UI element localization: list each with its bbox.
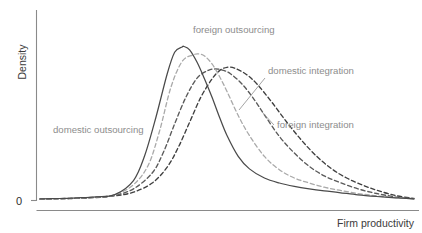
annotation-leaders — [239, 78, 274, 125]
chart-canvas: 0 Density Firm productivity domestic out… — [0, 0, 422, 233]
series-curves — [40, 46, 414, 199]
density-chart-figure: 0 Density Firm productivity domestic out… — [0, 0, 422, 233]
y-axis-zero-label: 0 — [16, 195, 22, 207]
leader-domestic-integration — [239, 78, 265, 110]
label-foreign-integration: foreign integration — [277, 119, 354, 130]
x-axis-title: Firm productivity — [337, 217, 415, 229]
curve-domestic-outsourcing — [40, 46, 414, 199]
label-domestic-outsourcing: domestic outsourcing — [53, 124, 144, 135]
label-foreign-outsourcing: foreign outsourcing — [193, 24, 275, 35]
y-axis-title: Density — [16, 44, 28, 80]
label-domestic-integration: domestic integration — [268, 65, 354, 76]
series-annotations: domestic outsourcing foreign outsourcing… — [53, 24, 354, 135]
axes-group — [31, 10, 419, 211]
leader-foreign-integration — [262, 112, 274, 125]
